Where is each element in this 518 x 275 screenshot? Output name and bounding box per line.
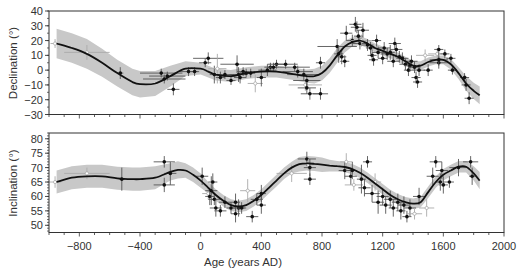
- filled-marker: [381, 195, 385, 199]
- filled-marker: [434, 160, 438, 164]
- filled-marker: [391, 59, 395, 63]
- filled-marker: [214, 206, 218, 210]
- open-marker: [53, 42, 56, 45]
- y-tick-label: 10: [31, 49, 43, 61]
- filled-marker: [417, 68, 421, 72]
- y-tick-label: 65: [31, 176, 43, 188]
- inclination-panel: 80757065605550 −800−40004008001200160020…: [7, 133, 516, 268]
- filled-marker: [343, 59, 347, 63]
- filled-marker: [449, 57, 453, 61]
- filled-marker: [193, 70, 197, 74]
- filled-marker: [363, 186, 367, 190]
- filled-marker: [382, 46, 386, 50]
- y-tick-label: 60: [31, 190, 43, 202]
- open-marker: [424, 54, 427, 57]
- filled-marker: [416, 80, 420, 84]
- filled-marker: [372, 58, 376, 62]
- open-marker: [53, 180, 56, 183]
- y-tick-label: 70: [31, 162, 43, 174]
- filled-marker: [340, 55, 344, 59]
- filled-marker: [219, 209, 223, 213]
- filled-marker: [260, 203, 264, 207]
- filled-marker: [211, 180, 215, 184]
- filled-marker: [361, 28, 365, 32]
- declination-data-point: [434, 45, 443, 54]
- inclination-data-point: [246, 211, 258, 223]
- inclination-y-label: Inclination (°): [7, 149, 19, 216]
- filled-marker: [229, 79, 233, 83]
- filled-marker: [159, 71, 163, 75]
- open-marker: [216, 67, 219, 70]
- filled-marker: [284, 62, 288, 66]
- filled-marker: [448, 180, 452, 184]
- filled-marker: [388, 198, 392, 202]
- x-tick-label: −800: [67, 240, 92, 252]
- open-marker: [345, 160, 348, 163]
- declination-data-point: [193, 52, 223, 64]
- filled-marker: [360, 177, 364, 181]
- declination-data-point: [351, 21, 363, 33]
- filled-marker: [234, 212, 238, 216]
- filled-marker: [162, 183, 166, 187]
- declination-panel: 403020100−10−20−30 Declination (°): [7, 5, 504, 121]
- filled-marker: [437, 48, 441, 52]
- inclination-data-point: [363, 156, 372, 168]
- declination-y-axis: 403020100−10−20−30: [24, 5, 49, 121]
- inclination-x-axis: −800−4000400800120016002000: [49, 233, 516, 252]
- open-marker: [246, 189, 249, 192]
- x-tick-label: 1600: [431, 240, 455, 252]
- filled-marker: [355, 25, 359, 29]
- declination-y-label: Declination (°): [7, 27, 19, 100]
- y-tick-label: 80: [31, 133, 43, 145]
- paleomagnetic-chart: 403020100−10−20−30 Declination (°) 80757…: [0, 0, 518, 275]
- inclination-y-axis: 80757065605550: [31, 133, 49, 232]
- filled-marker: [408, 206, 412, 210]
- filled-marker: [206, 57, 210, 61]
- filled-marker: [391, 206, 395, 210]
- filled-marker: [410, 59, 414, 63]
- open-marker: [425, 206, 428, 209]
- x-tick-label: 800: [313, 240, 331, 252]
- filled-marker: [375, 39, 379, 43]
- filled-marker: [238, 76, 242, 80]
- filled-marker: [376, 51, 380, 55]
- filled-marker: [319, 61, 323, 65]
- filled-marker: [443, 52, 447, 56]
- filled-marker: [439, 180, 443, 184]
- y-tick-label: 50: [31, 219, 43, 231]
- declination-x-axis: [49, 115, 504, 119]
- filled-marker: [451, 68, 455, 72]
- inclination-data-point: [345, 179, 363, 191]
- open-marker: [413, 212, 416, 215]
- y-tick-label: 75: [31, 147, 43, 159]
- filled-marker: [162, 160, 166, 164]
- filled-marker: [431, 174, 435, 178]
- y-tick-label: 20: [31, 35, 43, 47]
- filled-marker: [293, 65, 297, 69]
- filled-marker: [308, 177, 312, 181]
- filled-marker: [366, 160, 370, 164]
- filled-marker: [469, 160, 473, 164]
- filled-marker: [260, 76, 264, 80]
- filled-marker: [381, 57, 385, 61]
- filled-marker: [229, 206, 233, 210]
- open-marker: [85, 172, 88, 175]
- open-marker: [352, 183, 355, 186]
- inclination-data-point: [304, 173, 316, 185]
- filled-marker: [440, 169, 444, 173]
- filled-marker: [426, 68, 430, 72]
- y-tick-label: −20: [24, 94, 43, 106]
- filled-marker: [187, 70, 191, 74]
- filled-marker: [319, 92, 323, 96]
- filled-marker: [442, 183, 446, 187]
- x-tick-label: 0: [198, 240, 204, 252]
- inclination-data-point: [430, 156, 442, 168]
- y-tick-label: 55: [31, 205, 43, 217]
- filled-marker: [234, 200, 238, 204]
- inclination-data-point: [407, 208, 422, 220]
- y-tick-label: 40: [31, 5, 43, 17]
- x-tick-label: 400: [252, 240, 270, 252]
- filled-marker: [172, 88, 176, 92]
- x-tick-label: −400: [128, 240, 153, 252]
- filled-marker: [344, 31, 348, 35]
